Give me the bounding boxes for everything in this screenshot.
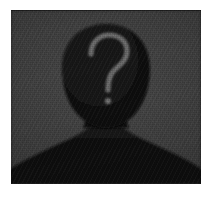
question-mark-dot xyxy=(105,98,111,104)
photo-area xyxy=(11,10,201,184)
shoulders-shape xyxy=(11,122,201,184)
unknown-person-silhouette xyxy=(11,10,201,184)
avatar-placeholder-image: Anonymous user silhouette with question … xyxy=(0,0,215,206)
head-shape xyxy=(62,24,150,128)
